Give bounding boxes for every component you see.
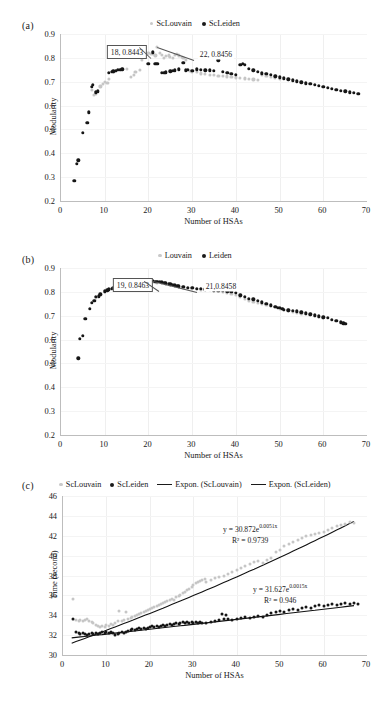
data-point	[234, 76, 237, 79]
y-axis-tick: 0.9	[45, 264, 55, 273]
panel-a-y-axis-label: Modularity	[49, 82, 58, 152]
data-point	[91, 83, 94, 86]
data-point	[283, 544, 286, 547]
data-point	[199, 68, 202, 71]
data-point	[239, 76, 242, 79]
legend-item-expon-sclouvain: Expon. (ScLouvain)	[157, 480, 241, 489]
gridline-horizontal	[61, 34, 367, 35]
gridline-horizontal	[61, 129, 367, 130]
data-point	[147, 62, 150, 65]
x-axis-tick: 70	[362, 660, 370, 669]
data-point	[247, 67, 250, 70]
x-axis-tick: 70	[362, 206, 370, 215]
gridline-horizontal	[61, 363, 367, 364]
legend-item-sclouvain: ScLouvain	[59, 480, 101, 489]
data-point	[343, 322, 346, 325]
legend-item-louvain: Louvain	[158, 251, 192, 260]
data-point	[330, 87, 333, 90]
data-point	[182, 61, 185, 64]
panel-b-plot-area: 19, 0.846321,0.8458	[60, 268, 367, 436]
data-point	[218, 619, 221, 622]
data-point	[331, 526, 334, 529]
data-point	[252, 78, 255, 81]
equation-r-squared: R² = 0.9739	[223, 535, 277, 546]
data-point	[134, 70, 137, 73]
y-axis-tick: 0.2	[45, 431, 55, 440]
data-point	[88, 307, 91, 310]
data-point	[208, 73, 211, 76]
data-point	[116, 620, 119, 623]
data-point	[300, 607, 303, 610]
data-point	[256, 70, 259, 73]
data-point	[322, 530, 325, 533]
gridline-horizontal	[61, 177, 367, 178]
data-point	[235, 568, 238, 571]
equation-r-squared: R² = 0.946	[253, 595, 307, 606]
panel-c-plot-area: y = 30.872e0.0051xR² = 0.9739y = 31.627e…	[62, 496, 367, 656]
gridline-vertical	[280, 34, 281, 201]
data-point	[253, 560, 256, 563]
y-axis-tick: 36	[49, 591, 57, 600]
data-point	[221, 74, 224, 77]
panel-c-legend: ScLouvain ScLeiden Expon. (ScLouvain) Ex…	[0, 480, 390, 489]
data-point	[257, 615, 260, 618]
data-point	[270, 556, 273, 559]
data-point	[132, 73, 135, 76]
data-point	[227, 572, 230, 575]
legend-item-expon-scleiden: Expon. (ScLeiden)	[251, 480, 331, 489]
data-point	[287, 542, 290, 545]
data-point	[217, 74, 220, 77]
data-point	[84, 317, 87, 320]
data-point	[225, 614, 228, 617]
data-point	[247, 77, 250, 80]
data-point	[357, 92, 360, 95]
data-point	[209, 579, 212, 582]
annotation-label: 21,0.8458	[204, 281, 238, 292]
x-axis-tick: 60	[318, 660, 326, 669]
data-point	[257, 559, 260, 562]
data-point	[86, 121, 89, 124]
data-point	[313, 532, 316, 535]
data-point	[348, 520, 351, 523]
data-point	[235, 618, 238, 621]
data-point	[138, 68, 141, 71]
data-point	[155, 62, 158, 65]
data-point	[292, 540, 295, 543]
data-point	[318, 604, 321, 607]
annotation-boxed: 19, 0.8463	[113, 278, 153, 292]
x-axis-tick: 50	[274, 206, 282, 215]
data-point	[240, 566, 243, 569]
data-point	[77, 159, 80, 162]
gridline-vertical	[192, 268, 193, 435]
data-point	[222, 574, 225, 577]
gridline-horizontal	[61, 153, 367, 154]
data-point	[106, 81, 109, 84]
data-point	[330, 318, 333, 321]
dark-dot-icon	[110, 483, 114, 487]
data-point	[214, 577, 217, 580]
data-point	[318, 531, 321, 534]
data-point	[177, 68, 180, 71]
data-point	[326, 316, 329, 319]
data-point	[231, 570, 234, 573]
data-point	[72, 598, 75, 601]
data-point	[309, 533, 312, 536]
data-point	[335, 319, 338, 322]
panel-b-plot: 19, 0.846321,0.8458 Modularity Number of…	[60, 268, 367, 436]
panel-a-plot: 18, 0.844322, 0.8456 Modularity Number o…	[60, 34, 367, 202]
x-axis-tick: 0	[58, 206, 62, 215]
y-axis-tick: 42	[49, 531, 57, 540]
data-point	[96, 90, 99, 93]
legend-item-sclouvain: ScLouvain	[150, 19, 192, 28]
data-point	[90, 88, 93, 91]
gridline-vertical	[236, 34, 237, 201]
y-axis-tick: 0.5	[45, 359, 55, 368]
data-point	[226, 75, 229, 78]
data-point	[348, 603, 351, 606]
data-point	[248, 617, 251, 620]
data-point	[274, 611, 277, 614]
data-point	[248, 562, 251, 565]
data-point	[305, 534, 308, 537]
data-point	[282, 308, 285, 311]
data-point	[87, 111, 90, 114]
